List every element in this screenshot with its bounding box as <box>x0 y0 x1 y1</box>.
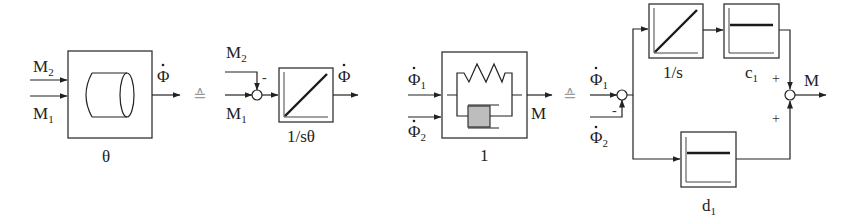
label-d1: d1 <box>702 196 716 217</box>
label-m: M <box>531 104 546 123</box>
label-1: 1 <box>480 146 489 165</box>
equivalence-symbol-2: ≙ <box>563 86 576 105</box>
damping-gain-box <box>681 132 736 187</box>
label-phi1-dot: Φ1 <box>590 70 608 91</box>
plus-sign-top: + <box>772 71 780 86</box>
parallel-model: Φ1 - Φ2 1/s c1 + d1 + M <box>590 4 826 217</box>
label-phi-dot: Φ <box>157 67 169 86</box>
label-m2: M2 <box>226 43 247 64</box>
label-phi1-dot: Φ1 <box>408 70 426 91</box>
equivalence-symbol-1: ≙ <box>193 86 206 105</box>
branch-top <box>627 29 648 95</box>
input-arrow-m2 <box>225 72 257 90</box>
input-arrow-phi2 <box>590 100 622 117</box>
label-1-over-s-theta: 1/sθ <box>287 127 315 146</box>
label-m1: M1 <box>33 104 54 125</box>
branch-bottom <box>633 95 680 159</box>
minus-sign: - <box>262 70 267 85</box>
arrow-stiffness-to-sum <box>779 30 790 89</box>
label-c1: c1 <box>745 63 758 84</box>
summing-junction <box>252 90 262 100</box>
inertia-box <box>68 51 152 138</box>
summing-junction-left <box>617 90 627 100</box>
summing-junction-right <box>785 90 795 100</box>
label-theta: θ <box>102 147 110 166</box>
stiffness-gain-box <box>724 4 779 58</box>
plus-sign-bottom: + <box>772 111 780 126</box>
spring-damper-block: Φ1 Φ2 M 1 <box>408 52 552 165</box>
label-1-over-s: 1/s <box>663 63 683 82</box>
label-m: M <box>804 71 819 90</box>
minus-sign: - <box>612 103 617 118</box>
block-diagram: M2 M1 Φ θ ≙ M2 - M1 Φ 1/sθ Φ1 Φ2 <box>0 0 857 222</box>
label-phi2-dot: Φ2 <box>408 122 426 143</box>
integrator-block: M2 - M1 Φ 1/sθ <box>225 43 358 146</box>
arrow-damping-to-sum <box>736 101 790 159</box>
inertia-block: M2 M1 Φ θ <box>30 51 180 166</box>
label-phi2-dot: Φ2 <box>590 128 608 149</box>
label-m1: M1 <box>226 104 247 125</box>
label-phi-dot: Φ <box>338 67 350 86</box>
label-m2: M2 <box>33 57 54 78</box>
